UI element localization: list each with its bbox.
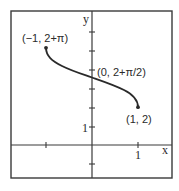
y-axis-label: y [83,12,89,26]
x-axis-label: x [162,143,168,157]
point-label-mid: (0, 2+π/2) [97,66,146,78]
point-label-left: (−1, 2+π) [22,32,68,44]
y-tick-label-1: 1 [82,121,88,135]
x-tick-label-1: 1 [135,148,141,162]
endpoint-left [44,46,48,50]
endpoint-right [136,105,140,109]
point-label-right: (1, 2) [126,113,152,125]
graph-plot: y x 1 1 (−1, 2+π) (0, 2+π/2) (1, 2) [0,0,179,191]
